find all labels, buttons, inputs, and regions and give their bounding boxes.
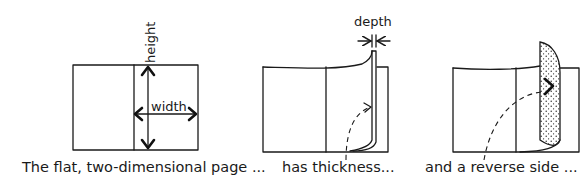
width-label: width bbox=[151, 99, 187, 114]
panel-thickness: depth has thickness... bbox=[263, 14, 395, 175]
depth-label: depth bbox=[354, 14, 392, 29]
height-label: height bbox=[143, 22, 158, 63]
reverse-side-stippled-page bbox=[540, 42, 560, 145]
panel-flat-page: height width The flat, two-dimensional p… bbox=[21, 22, 266, 175]
left-page-top-edge bbox=[453, 66, 540, 69]
caption-flat-page: The flat, two-dimensional page ... bbox=[21, 159, 266, 175]
caption-thickness: has thickness... bbox=[282, 159, 395, 175]
page-turn-arrow-icon bbox=[364, 103, 371, 112]
depth-guide-lines bbox=[372, 35, 376, 47]
caption-reverse-side: and a reverse side ... bbox=[425, 159, 578, 175]
left-page-top-edge bbox=[263, 51, 372, 68]
panel-reverse-side: and a reverse side ... bbox=[425, 42, 579, 175]
page-dimensions-diagram: height width The flat, two-dimensional p… bbox=[0, 0, 584, 190]
page-turn-dashed-path bbox=[484, 92, 541, 160]
